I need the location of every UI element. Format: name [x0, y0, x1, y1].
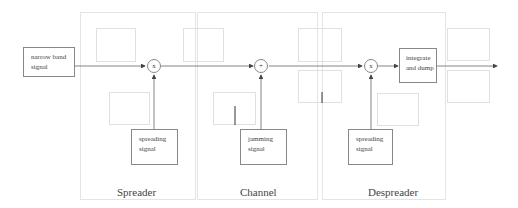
integrate-label-2: and dump	[406, 63, 436, 73]
spreading-signal-label-1: spreading	[139, 134, 177, 144]
narrow-band-signal-label-1: narrow band	[31, 52, 74, 62]
narrow-band-signal-block: narrow band signal	[23, 47, 75, 77]
narrow-band-signal-label-2: signal	[31, 62, 74, 72]
signal-wires	[0, 0, 518, 208]
spreading-signal-block: spreading signal	[131, 129, 178, 165]
jamming-signal-block: jamming signal	[240, 129, 287, 165]
channel-label: Channel	[240, 186, 277, 198]
despreader-label: Despreader	[368, 186, 418, 198]
jamming-signal-label-2: signal	[248, 144, 286, 154]
despreading-signal-block: spreading signal	[348, 129, 393, 165]
integrate-label-1: integrate	[406, 53, 436, 63]
despreading-signal-label-1: spreading	[356, 134, 392, 144]
despreader-multiplier: x	[364, 59, 378, 73]
integrate-and-dump-block: integrate and dump	[399, 48, 437, 83]
despreading-signal-label-2: signal	[356, 144, 392, 154]
channel-adder: +	[254, 59, 268, 73]
spreader-multiplier: x	[147, 59, 161, 73]
spreader-label: Spreader	[117, 186, 156, 198]
spreading-signal-label-2: signal	[139, 144, 177, 154]
jamming-signal-label-1: jamming	[248, 134, 286, 144]
